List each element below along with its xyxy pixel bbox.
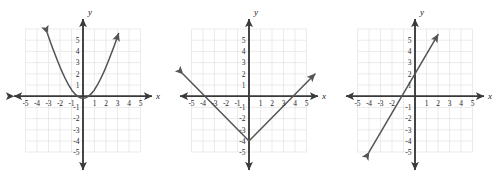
graph-b-svg: y x -5 -4 -3 -2 -1 1 2 3 4 5 5 4 3 2 1 -…: [166, 0, 332, 181]
svg-text:4: 4: [127, 99, 131, 108]
svg-text:5: 5: [408, 36, 412, 45]
svg-text:1: 1: [76, 81, 80, 90]
svg-text:2: 2: [436, 99, 440, 108]
svg-text:-2: -2: [57, 99, 63, 108]
svg-text:-3: -3: [377, 99, 383, 108]
graph-c-svg: y x -5 -4 -3 -2 1 2 3 4 5 5 4 3 2 1 -1 -…: [332, 0, 499, 181]
x-axis-label-c: x: [487, 91, 492, 101]
graph-panel-c: y x -5 -4 -3 -2 1 2 3 4 5 5 4 3 2 1 -1 -…: [332, 0, 498, 181]
svg-text:2: 2: [104, 99, 108, 108]
svg-text:-4: -4: [405, 137, 411, 146]
svg-text:5: 5: [305, 99, 309, 108]
svg-text:5: 5: [76, 36, 80, 45]
svg-text:-2: -2: [239, 114, 245, 123]
svg-text:2: 2: [242, 70, 246, 79]
y-axis-label-b: y: [253, 7, 258, 17]
svg-text:-1: -1: [73, 103, 79, 112]
svg-text:4: 4: [459, 99, 463, 108]
svg-text:3: 3: [408, 58, 412, 67]
svg-text:1: 1: [408, 81, 412, 90]
svg-text:2: 2: [270, 99, 274, 108]
svg-text:-2: -2: [389, 99, 395, 108]
svg-text:-3: -3: [73, 126, 79, 135]
svg-text:-5: -5: [22, 99, 28, 108]
svg-text:-4: -4: [73, 137, 79, 146]
svg-text:1: 1: [93, 99, 97, 108]
svg-text:-5: -5: [188, 99, 194, 108]
svg-text:3: 3: [242, 58, 246, 67]
svg-text:-4: -4: [366, 99, 372, 108]
svg-text:-3: -3: [405, 126, 411, 135]
svg-text:-2: -2: [73, 114, 79, 123]
svg-text:-5: -5: [73, 148, 79, 157]
svg-text:5: 5: [242, 36, 246, 45]
svg-text:2: 2: [76, 70, 80, 79]
x-axis-label-b: x: [321, 91, 326, 101]
svg-text:4: 4: [293, 99, 297, 108]
svg-text:3: 3: [448, 99, 452, 108]
svg-text:1: 1: [242, 81, 246, 90]
svg-text:-2: -2: [405, 114, 411, 123]
svg-text:4: 4: [76, 47, 80, 56]
graph-panel-a: y x -5 -4 -3 -2 -1 1 2 3 4 5 5 4 3 2: [0, 0, 166, 181]
svg-text:5: 5: [139, 99, 143, 108]
svg-text:2: 2: [408, 70, 412, 79]
three-graph-figure: y x -5 -4 -3 -2 -1 1 2 3 4 5 5 4 3 2: [0, 0, 499, 181]
svg-text:-5: -5: [239, 148, 245, 157]
svg-text:-5: -5: [405, 148, 411, 157]
svg-text:3: 3: [76, 58, 80, 67]
svg-text:4: 4: [408, 47, 412, 56]
svg-text:-5: -5: [354, 99, 360, 108]
svg-text:1: 1: [259, 99, 263, 108]
svg-text:1: 1: [425, 99, 429, 108]
svg-text:-4: -4: [34, 99, 40, 108]
svg-text:4: 4: [242, 47, 246, 56]
graph-a-svg: y x -5 -4 -3 -2 -1 1 2 3 4 5 5 4 3 2: [0, 0, 166, 181]
svg-text:-1: -1: [239, 103, 245, 112]
svg-text:-3: -3: [239, 126, 245, 135]
svg-text:3: 3: [282, 99, 286, 108]
y-axis-label-a: y: [87, 7, 92, 17]
svg-text:-1: -1: [405, 103, 411, 112]
svg-text:-4: -4: [239, 137, 245, 146]
graph-panel-b: y x -5 -4 -3 -2 -1 1 2 3 4 5 5 4 3 2 1 -…: [166, 0, 332, 181]
svg-text:-3: -3: [211, 99, 217, 108]
y-axis-label-c: y: [419, 7, 424, 17]
x-axis-label-a: x: [155, 91, 160, 101]
svg-text:-2: -2: [223, 99, 229, 108]
svg-text:3: 3: [116, 99, 120, 108]
svg-text:5: 5: [471, 99, 475, 108]
svg-text:-4: -4: [200, 99, 206, 108]
svg-text:-3: -3: [45, 99, 51, 108]
